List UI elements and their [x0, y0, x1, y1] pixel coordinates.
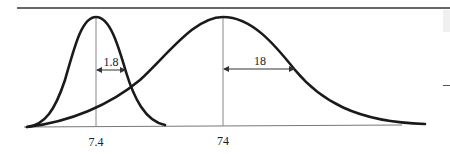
margin-shade: [443, 10, 450, 32]
sd-label-wide: 18: [254, 54, 266, 68]
mean-tick-label-wide: 74: [217, 134, 229, 148]
sd-label-narrow: 1.8: [104, 55, 119, 69]
wide-normal-curve: [27, 17, 425, 127]
x-axis: [24, 125, 402, 127]
mean-tick-label-narrow: 7.4: [89, 135, 104, 149]
distribution-figure: 1.8 18 7.4 74: [0, 0, 450, 154]
margin-tick: [443, 85, 450, 86]
